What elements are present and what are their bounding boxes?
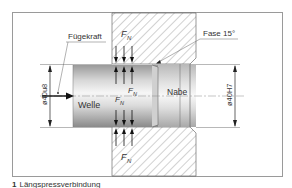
svg-text:N: N	[127, 35, 132, 41]
shaft-diameter-label: ø40u8	[40, 84, 49, 105]
svg-text:N: N	[127, 158, 132, 164]
svg-text:N: N	[133, 91, 137, 97]
figure-number: 1	[12, 180, 16, 188]
bore-diameter-label: ø40H7	[225, 83, 234, 106]
joining-force-label: Fügekraft	[68, 32, 103, 41]
svg-text:N: N	[120, 100, 124, 106]
shaft-label: Welle	[78, 100, 100, 110]
chamfer-label: Fase 15°	[203, 29, 235, 38]
press-fit-diagram: ø40u8 ø40H7 Fügekraft Fase 15° Welle Nab…	[0, 0, 292, 188]
hub-label: Nabe	[167, 87, 188, 97]
bore-diameter-dimension: ø40H7	[225, 65, 237, 127]
figure-caption: 1Längspressverbindung	[12, 180, 100, 188]
figure-caption-text: Längspressverbindung	[19, 180, 100, 188]
joining-force-leader	[58, 42, 68, 92]
